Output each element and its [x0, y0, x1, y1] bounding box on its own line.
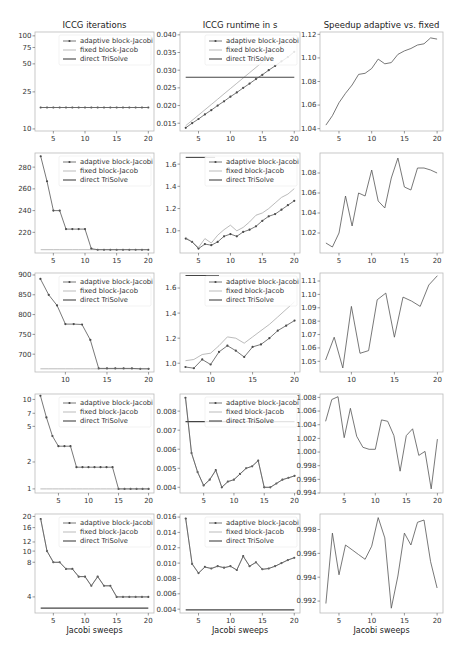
legend-entry-direct: direct TriSolve	[80, 176, 128, 184]
y-tick-label: 0.992	[296, 597, 316, 605]
y-tick-label: 240	[18, 207, 31, 215]
y-tick-label: 0.014	[156, 529, 177, 537]
y-tick-label: 7	[27, 410, 31, 418]
y-tick-label: 1.06	[301, 344, 317, 352]
x-tick-label: 20	[144, 135, 153, 143]
y-tick-label: 10	[23, 548, 32, 556]
y-tick-label: 0.010	[156, 560, 176, 568]
y-tick-label: 1.4	[165, 183, 177, 191]
y-tick-label: 16	[23, 524, 32, 532]
subplot-r1-c0: 5101520220240260280adaptive block-Jacobi…	[18, 153, 154, 265]
legend-entry-adaptive: adaptive block-Jacobi	[80, 399, 153, 407]
x-tick-label: 15	[114, 497, 123, 505]
y-tick-label: 1.04	[301, 125, 317, 133]
x-tick-label: 20	[290, 376, 299, 384]
y-tick-label: 1.2	[165, 205, 176, 213]
legend-entry-adaptive: adaptive block-Jacobi	[226, 158, 299, 166]
y-tick-label: 0.008	[156, 575, 176, 583]
y-tick-label: 0.006	[156, 446, 177, 454]
y-tick-label: 900	[18, 271, 31, 279]
y-tick-label: 100	[18, 32, 31, 40]
x-tick-label: 10	[84, 497, 93, 505]
y-tick-label: 0.004	[156, 484, 177, 492]
y-tick-label: 1.10	[301, 291, 317, 299]
subplot-r3-c2: 51015200.9940.9960.9981.0001.0021.0041.0…	[296, 394, 443, 505]
legend-entry-fixed: fixed block-Jacob	[80, 528, 138, 536]
y-tick-label: 1.08	[301, 169, 317, 177]
x-tick-label: 15	[400, 617, 409, 625]
y-tick-label: 0.994	[296, 489, 317, 497]
subplot-r4-c1: 51015200.0040.0060.0080.0100.0120.0140.0…	[156, 513, 300, 635]
y-tick-label: 0.015	[156, 120, 176, 128]
y-tick-label: 1.07	[301, 331, 317, 339]
legend-entry-direct: direct TriSolve	[80, 296, 128, 304]
x-tick-label: 15	[112, 135, 121, 143]
legend-entry-adaptive: adaptive block-Jacobi	[80, 278, 153, 286]
x-tick-label: 10	[367, 617, 376, 625]
y-tick-label: 0.007	[156, 427, 176, 435]
x-tick-label: 15	[103, 376, 112, 384]
y-tick-label: 0.994	[296, 574, 317, 582]
legend-entry-direct: direct TriSolve	[226, 296, 274, 304]
x-tick-label: 20	[433, 376, 442, 384]
y-tick-label: 1.6	[165, 284, 177, 292]
legend-entry-adaptive: adaptive block-Jacobi	[80, 158, 153, 166]
y-tick-label: 1.04	[301, 209, 317, 217]
x-tick-label: 5	[56, 497, 60, 505]
legend: adaptive block-Jacobifixed block-Jacobdi…	[59, 517, 153, 547]
x-tick-label: 10	[81, 135, 90, 143]
x-tick-label: 20	[290, 135, 299, 143]
legend: adaptive block-Jacobifixed block-Jacobdi…	[59, 397, 153, 427]
y-tick-label: 0.040	[156, 31, 176, 39]
legend-entry-direct: direct TriSolve	[226, 55, 274, 63]
legend-entry-fixed: fixed block-Jacob	[226, 167, 284, 175]
legend: adaptive block-Jacobifixed block-Jacobdi…	[59, 35, 153, 65]
x-tick-label: 15	[260, 497, 269, 505]
subplot-r1-c2: 51015201.021.041.061.08	[301, 153, 443, 265]
x-tick-label: 20	[290, 257, 299, 265]
x-tick-label: 20	[144, 617, 153, 625]
subplot-r0-c0: ICCG iterations510152010255075100adaptiv…	[18, 20, 154, 143]
x-tick-label: 5	[337, 257, 341, 265]
y-tick-label: 1.08	[301, 318, 317, 326]
x-tick-label: 10	[226, 135, 235, 143]
x-tick-label: 20	[144, 497, 153, 505]
legend-entry-direct: direct TriSolve	[226, 417, 274, 425]
x-tick-label: 10	[81, 617, 90, 625]
x-tick-label: 15	[400, 257, 409, 265]
y-tick-label: 1.002	[296, 435, 316, 443]
x-tick-label: 20	[290, 617, 299, 625]
y-tick-label: 0.008	[156, 408, 176, 416]
legend-entry-fixed: fixed block-Jacob	[226, 46, 284, 54]
x-tick-label: 15	[258, 135, 267, 143]
legend: adaptive block-Jacobifixed block-Jacobdi…	[205, 397, 299, 427]
y-tick-label: 0.006	[156, 590, 177, 598]
legend-entry-fixed: fixed block-Jacob	[226, 528, 284, 536]
y-tick-label: 0.012	[156, 544, 176, 552]
y-tick-label: 280	[18, 164, 31, 172]
axes-frame	[320, 273, 443, 372]
legend-entry-fixed: fixed block-Jacob	[226, 408, 284, 416]
legend: adaptive block-Jacobifixed block-Jacobdi…	[205, 156, 299, 186]
subplot-r1-c1: 51015201.01.21.41.6adaptive block-Jacobi…	[165, 153, 300, 265]
x-axis-label: Jacobi sweeps	[352, 626, 409, 635]
legend-entry-adaptive: adaptive block-Jacobi	[226, 519, 299, 527]
x-tick-label: 10	[226, 257, 235, 265]
y-tick-label: 750	[18, 331, 31, 339]
y-tick-label: 20	[23, 513, 32, 521]
x-tick-label: 20	[433, 497, 442, 505]
subplot-r3-c1: 51015200.0040.0050.0060.0070.008adaptive…	[156, 394, 300, 505]
legend-entry-adaptive: adaptive block-Jacobi	[226, 278, 299, 286]
legend-entry-direct: direct TriSolve	[80, 537, 128, 545]
y-tick-label: 12	[23, 538, 32, 546]
subplot-r4-c2: 51015200.9920.9940.9960.998Jacobi sweeps	[296, 514, 443, 635]
x-tick-label: 10	[206, 376, 215, 384]
subplot-r0-c2: Speedup adaptive vs. fixed51015201.041.0…	[301, 20, 443, 143]
subplot-r2-c0: 101520700750800850900adaptive block-Jaco…	[18, 271, 154, 384]
y-tick-label: 1.6	[165, 161, 177, 169]
y-tick-label: 0.020	[156, 102, 176, 110]
legend-entry-adaptive: adaptive block-Jacobi	[80, 37, 153, 45]
x-tick-label: 15	[112, 617, 121, 625]
y-tick-label: 5	[27, 423, 31, 431]
legend-entry-adaptive: adaptive block-Jacobi	[80, 519, 153, 527]
